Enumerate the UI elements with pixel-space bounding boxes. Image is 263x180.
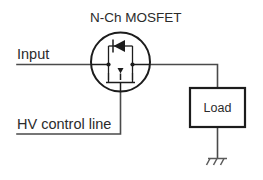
diagram-title: N-Ch MOSFET [90, 10, 182, 25]
schematic-canvas: N-Ch MOSFET Input HV control line Load [0, 0, 263, 180]
wire-output-net [148, 65, 218, 89]
circuit-diagram: N-Ch MOSFET Input HV control line Load [0, 0, 263, 180]
load-label: Load [204, 101, 232, 115]
mosfet-symbol-group [91, 33, 150, 93]
ground-hatch-1 [207, 159, 211, 166]
hv-control-line-label: HV control line [17, 116, 111, 132]
input-label: Input [17, 46, 49, 62]
ground-symbol [207, 159, 228, 166]
ground-hatch-3 [221, 159, 225, 166]
ground-hatch-2 [214, 159, 218, 166]
